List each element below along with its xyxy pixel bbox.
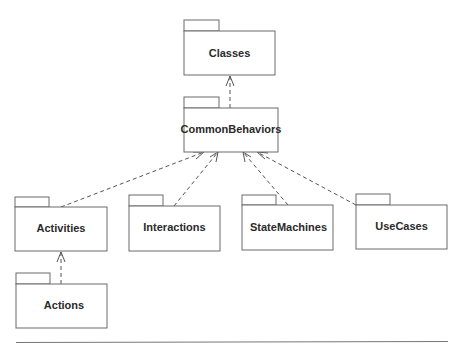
- package-tab: [129, 195, 163, 206]
- package-label: Classes: [209, 47, 251, 59]
- package-label: UseCases: [375, 220, 428, 232]
- package-tab: [15, 197, 49, 207]
- package-common-behaviors[interactable]: CommonBehaviors: [181, 97, 282, 152]
- package-diagram: Classes CommonBehaviors Activities Inter…: [0, 0, 461, 349]
- package-tab: [356, 194, 390, 205]
- package-activities[interactable]: Activities: [15, 197, 107, 251]
- package-state-machines[interactable]: StateMachines: [242, 195, 333, 250]
- package-tab: [16, 273, 50, 284]
- dependency-interactions-to-commonbehaviors: [174, 152, 218, 206]
- package-tab: [242, 195, 276, 205]
- package-label: Interactions: [143, 221, 205, 233]
- package-classes[interactable]: Classes: [184, 20, 275, 75]
- dependency-actions-to-activities: [57, 252, 65, 284]
- package-tab: [184, 97, 219, 108]
- package-tab: [184, 20, 219, 31]
- horizontal-rule: [16, 342, 448, 343]
- package-interactions[interactable]: Interactions: [129, 195, 220, 251]
- dependency-commonbehaviors-to-classes: [226, 76, 234, 108]
- package-label: Actions: [44, 299, 84, 311]
- package-label: CommonBehaviors: [181, 123, 282, 135]
- package-use-cases[interactable]: UseCases: [356, 194, 447, 249]
- package-label: Activities: [37, 222, 86, 234]
- package-label: StateMachines: [250, 221, 327, 233]
